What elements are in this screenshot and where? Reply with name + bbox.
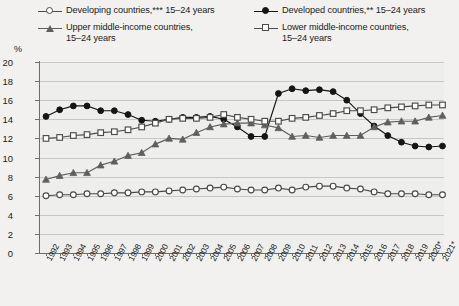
data-point (358, 108, 364, 114)
data-point (426, 192, 432, 198)
y-axis-tick-label: 4 (0, 209, 13, 220)
y-axis-tick-label: 20 (0, 57, 13, 68)
chart-legend: Developing countries,*** 15–24 years Dev… (0, 0, 459, 52)
y-axis-tickmark (35, 234, 39, 235)
data-point (70, 192, 76, 198)
data-point (330, 89, 336, 95)
data-point (289, 116, 295, 122)
legend-item-developing-countries[interactable]: Developing countries,*** 15–24 years (38, 5, 215, 17)
data-point (412, 143, 418, 149)
data-point (344, 108, 350, 114)
data-point (84, 103, 90, 109)
data-point (193, 186, 199, 192)
y-axis-tick-label: 10 (0, 152, 13, 163)
data-point (276, 91, 282, 97)
data-point (303, 184, 309, 190)
y-axis-tickmark (35, 215, 39, 216)
legend-label-developing-countries: Developing countries,*** 15–24 years (66, 5, 215, 16)
data-point (84, 191, 90, 197)
data-point (43, 193, 49, 199)
data-point (57, 192, 63, 198)
series-lines (40, 62, 444, 253)
data-point (207, 185, 213, 191)
data-point (221, 184, 227, 190)
data-point (303, 88, 309, 94)
data-point (111, 158, 118, 164)
y-axis-tick-label: 16 (0, 95, 13, 106)
y-axis-tickmark (35, 119, 39, 120)
y-axis-tickmark (35, 196, 39, 197)
y-axis-tickmark (35, 158, 39, 159)
data-point (207, 115, 213, 121)
data-point (440, 192, 446, 198)
y-axis-tick-label: 18 (0, 76, 13, 87)
chart-root: Developing countries,*** 15–24 years Dev… (0, 0, 459, 306)
data-point (412, 191, 418, 197)
legend-marker-triangle-filled-icon (38, 23, 62, 34)
data-point (248, 117, 254, 123)
y-axis-tick-label: 6 (0, 190, 13, 201)
data-point (111, 190, 117, 196)
data-point (112, 129, 118, 135)
legend-label-upper-middle-income-countries: Upper middle-income countries, 15–24 yea… (66, 22, 193, 45)
legend-item-upper-middle-income-countries[interactable]: Upper middle-income countries, 15–24 yea… (38, 22, 193, 45)
legend-item-lower-middle-income-countries[interactable]: Lower middle-income countries, 15–24 yea… (254, 22, 409, 45)
data-point (426, 144, 432, 150)
legend-item-developed-countries[interactable]: Developed countries,** 15–24 years (254, 5, 425, 17)
y-axis-tick-label: 14 (0, 114, 13, 125)
data-point (399, 104, 405, 110)
data-point (84, 132, 90, 138)
data-point (371, 189, 377, 195)
data-point (139, 189, 145, 195)
data-point (303, 115, 309, 121)
data-point (43, 136, 49, 142)
data-point (139, 117, 145, 123)
data-point (412, 103, 418, 109)
data-point (138, 149, 145, 155)
data-point (385, 105, 391, 111)
data-point (166, 117, 172, 123)
legend-marker-circle-open-icon (38, 6, 62, 17)
data-point (262, 118, 268, 124)
y-axis-tickmark (35, 253, 39, 254)
x-axis-tick-labels: 1992199319941995199619971998199920002001… (0, 256, 459, 306)
data-point (125, 127, 131, 133)
data-point (358, 186, 364, 192)
data-point (317, 87, 323, 93)
data-point (152, 141, 159, 147)
data-point (276, 185, 282, 191)
data-point (125, 112, 131, 118)
data-point (248, 187, 254, 193)
data-point (426, 102, 432, 108)
data-point (317, 113, 323, 119)
data-point (152, 189, 158, 195)
y-axis-tickmark (35, 177, 39, 178)
data-point (289, 86, 295, 92)
data-point (440, 102, 446, 108)
series-3 (43, 112, 446, 182)
data-point (71, 133, 77, 139)
y-axis-tickmark (35, 62, 39, 63)
data-point (221, 112, 227, 118)
series-1 (43, 183, 445, 198)
data-point (248, 134, 254, 140)
data-point (153, 120, 159, 126)
data-point (330, 111, 336, 117)
legend-marker-square-open-icon (254, 23, 278, 34)
data-point (262, 187, 268, 193)
data-point (317, 183, 323, 189)
legend-marker-circle-filled-icon (254, 6, 278, 17)
data-point (399, 139, 405, 145)
data-point (439, 112, 446, 118)
data-point (57, 135, 63, 141)
data-point (193, 129, 200, 135)
data-point (139, 124, 145, 130)
y-axis-tickmark (35, 81, 39, 82)
data-point (262, 134, 268, 140)
data-point (440, 143, 446, 149)
data-point (371, 107, 377, 113)
data-point (125, 190, 131, 196)
data-point (166, 188, 172, 194)
data-point (180, 116, 186, 122)
data-point (98, 130, 104, 136)
